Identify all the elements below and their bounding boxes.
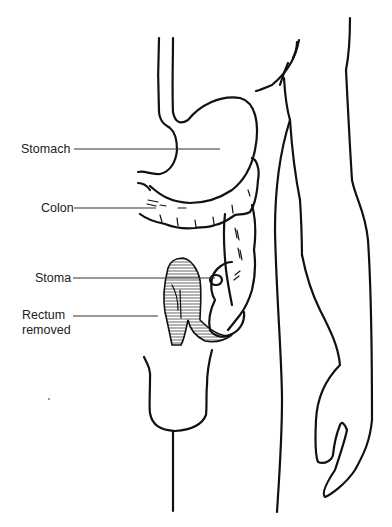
label-stomach: Stomach — [21, 142, 70, 156]
esophagus — [138, 38, 257, 203]
label-rectum: Rectum — [22, 308, 65, 322]
descending-colon — [224, 205, 255, 330]
label-colon: Colon — [41, 201, 74, 215]
arm-outline — [300, 18, 372, 497]
label-stoma: Stoma — [35, 271, 71, 285]
pelvis-outline — [144, 350, 212, 511]
stomach-outline — [138, 183, 150, 190]
torso-outline — [256, 40, 300, 512]
anatomy-diagram — [0, 0, 392, 527]
label-removed: removed — [22, 323, 71, 337]
rectum-removed-area — [164, 258, 232, 345]
speck — [48, 398, 50, 400]
